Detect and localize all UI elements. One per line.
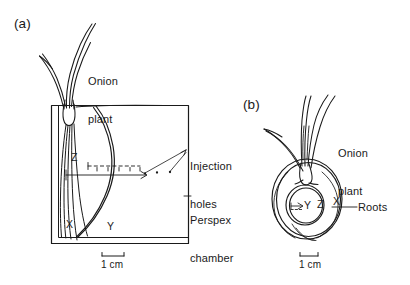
panel-b-marker-z: Z (317, 199, 324, 211)
injection-holes-line1: Injection (190, 160, 232, 173)
scale-bar-b-caption: 1 cm (299, 259, 321, 270)
panel-b-onion-plant-line1: Onion (338, 147, 368, 160)
panel-a-marker-z: Z (71, 152, 78, 164)
perspex-chamber-label: Perspex chamber (190, 189, 234, 277)
panel-a-onion-plant-line2: plant (88, 113, 118, 126)
panel-a-marker-x: X (66, 219, 73, 231)
panel-b-onion-plant-line2: plant (338, 185, 368, 198)
panel-b-marker-x: X (333, 196, 340, 208)
panel-b-tag: (b) (243, 97, 260, 112)
panel-a-onion-plant-line1: Onion (88, 75, 118, 88)
panel-b-onion-plant-label: Onion plant (338, 122, 368, 210)
panel-a-marker-y: Y (107, 221, 114, 233)
panel-b-marker-y: Y (304, 200, 311, 212)
perspex-chamber-line2: chamber (190, 252, 234, 265)
scale-bar-a-caption: 1 cm (101, 259, 123, 270)
perspex-chamber-line1: Perspex (190, 214, 234, 227)
panel-a-onion-plant-label: Onion plant (88, 50, 118, 138)
panel-a-tag: (a) (14, 16, 31, 31)
roots-label: Roots (358, 201, 387, 213)
